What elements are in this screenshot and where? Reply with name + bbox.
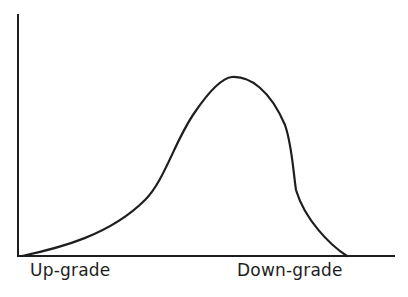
chart-canvas [0,0,408,297]
distribution-curve [22,77,347,256]
x-label-up-grade: Up-grade [30,260,110,280]
x-label-down-grade: Down-grade [237,260,343,280]
